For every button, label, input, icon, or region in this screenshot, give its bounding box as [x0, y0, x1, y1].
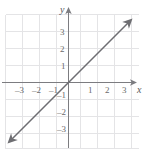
y-tick-label--3: –3 [57, 125, 66, 134]
x-axis-label: x [137, 85, 141, 95]
y-tick-label--2: –2 [57, 108, 66, 117]
x-tick-label-2: 2 [105, 86, 110, 95]
x-tick-label-1: 1 [88, 86, 93, 95]
y-tick-label-1: 1 [61, 62, 66, 71]
x-tick-label--2: –2 [32, 86, 41, 95]
x-tick-label-3: 3 [122, 86, 127, 95]
x-tick-label--3: –3 [15, 86, 24, 95]
y-tick-label-2: 2 [60, 45, 65, 54]
plotted-line [8, 19, 133, 144]
y-axis [65, 7, 71, 148]
graph-figure: –3 –2 –1 1 2 3 3 2 1 –1 –2 –3 y x [0, 0, 149, 152]
y-axis-label: y [60, 5, 64, 15]
grid-lines [6, 15, 139, 149]
coordinate-plane [0, 0, 149, 152]
y-tick-label--1: –1 [57, 91, 66, 100]
y-tick-label-3: 3 [60, 28, 65, 37]
